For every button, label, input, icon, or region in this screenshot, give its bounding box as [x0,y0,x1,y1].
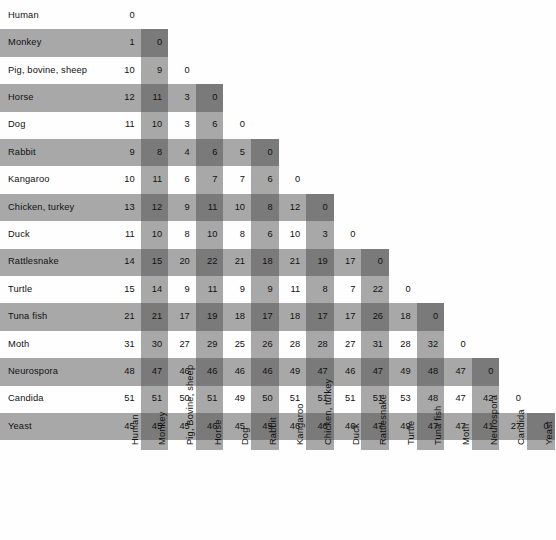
matrix-cell: 10 [141,230,163,239]
matrix-cell: 11 [141,93,163,102]
matrix-cell: 3 [168,120,190,129]
matrix-cell: 0 [444,340,466,349]
column-label-text: Horse [214,419,223,445]
matrix-cell: 30 [141,340,163,349]
matrix-cell: 12 [141,203,163,212]
matrix-cell: 19 [196,312,218,321]
matrix-cell: 11 [113,230,135,239]
matrix-cell: 8 [251,203,273,212]
matrix-cell: 15 [141,257,163,266]
matrix-cell: 10 [113,175,135,184]
matrix-cell: 26 [361,312,383,321]
matrix-cell: 49 [389,367,411,376]
matrix-cell: 0 [251,148,273,157]
column-label-text: Duck [352,423,361,445]
matrix-cell: 10 [196,230,218,239]
row-label: Rattlesnake [8,257,59,266]
matrix-cell: 6 [251,175,273,184]
column-label-text: Kangaroo [296,403,305,445]
matrix-cell: 17 [168,312,190,321]
matrix-cell: 0 [417,312,439,321]
row-label: Chicken, turkey [8,203,74,212]
column-label-text: Chicken, turkey [324,378,333,444]
matrix-cell: 28 [389,340,411,349]
matrix-cell: 21 [223,257,245,266]
matrix-cell: 0 [361,257,383,266]
matrix-cell: 11 [141,175,163,184]
matrix-cell: 28 [279,340,301,349]
column-label-text: Human [131,414,140,445]
matrix-cell: 20 [168,257,190,266]
row-label: Tuna fish [8,312,47,321]
matrix-cell: 10 [141,120,163,129]
matrix-cell: 6 [168,175,190,184]
matrix-cell: 4 [168,148,190,157]
matrix-cell: 48 [417,394,439,403]
matrix-cell: 31 [113,340,135,349]
row-label: Horse [8,93,34,102]
matrix-cell: 6 [251,230,273,239]
row-label: Duck [8,230,30,239]
column-label-text: Tuna fish [434,405,443,444]
matrix-cell: 28 [306,340,328,349]
matrix-cell: 7 [223,175,245,184]
matrix-cell: 50 [251,394,273,403]
matrix-cell: 17 [306,312,328,321]
matrix-cell: 51 [141,394,163,403]
column-label-text: Rattlesnake [379,394,388,445]
matrix-cell: 9 [223,285,245,294]
matrix-cell: 0 [472,367,494,376]
column-label-text: Rabbit [269,417,278,445]
row-label: Kangaroo [8,175,50,184]
row-label: Candida [8,394,44,403]
matrix-cell: 1 [113,38,135,47]
row-label: Turtle [8,285,32,294]
matrix-cell: 21 [279,257,301,266]
matrix-cell: 0 [141,38,163,47]
matrix-cell: 8 [223,230,245,239]
matrix-cell: 11 [279,285,301,294]
matrix-cell: 26 [251,340,273,349]
matrix-cell: 0 [223,120,245,129]
column-label-text: Pig, Bovine, sheep [186,364,195,444]
matrix-cell: 12 [113,93,135,102]
matrix-cell: 9 [113,148,135,157]
matrix-cell: 47 [361,367,383,376]
matrix-cell: 46 [223,367,245,376]
matrix-cell: 46 [334,367,356,376]
matrix-cell: 12 [279,203,301,212]
matrix-cell: 0 [389,285,411,294]
matrix-cell: 8 [141,148,163,157]
column-label-text: Yeast [545,421,554,445]
column-label-text: Monkey [158,411,167,444]
matrix-cell: 17 [334,312,356,321]
row-label: Monkey [8,38,41,47]
matrix-cell: 0 [196,93,218,102]
row-label: Rabbit [8,148,36,157]
matrix-cell: 0 [334,230,356,239]
matrix-cell: 53 [389,394,411,403]
row-label: Dog [8,120,26,129]
matrix-cell: 21 [113,312,135,321]
matrix-cell: 0 [279,175,301,184]
matrix-cell: 17 [334,257,356,266]
matrix-cell: 10 [279,230,301,239]
matrix-cell: 18 [279,312,301,321]
column-label-text: Moth [462,423,471,444]
matrix-cell: 18 [251,257,273,266]
matrix-cell: 11 [196,285,218,294]
matrix-cell: 11 [113,120,135,129]
matrix-cell: 7 [196,175,218,184]
row-label: Neurospora [8,367,58,376]
matrix-cell: 51 [113,394,135,403]
matrix-cell: 32 [417,340,439,349]
column-label-text: Neurospora [490,395,499,445]
matrix-cell: 49 [223,394,245,403]
matrix-cell: 8 [306,285,328,294]
matrix-cell: 29 [196,340,218,349]
matrix-cell: 9 [251,285,273,294]
difference-matrix-figure: HumanMonkeyPig, bovine, sheepHorseDogRab… [0,0,556,540]
row-label: Pig, bovine, sheep [8,66,87,75]
matrix-cell: 46 [251,367,273,376]
matrix-cell: 22 [196,257,218,266]
